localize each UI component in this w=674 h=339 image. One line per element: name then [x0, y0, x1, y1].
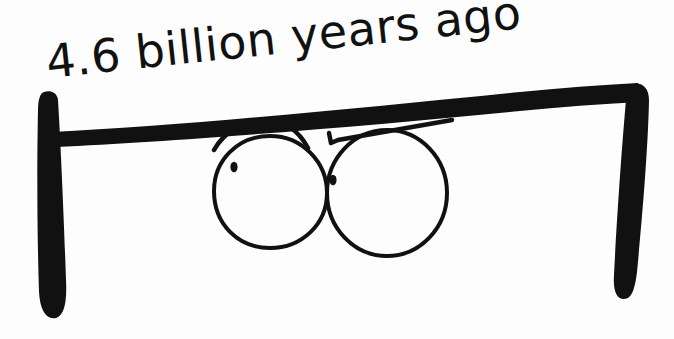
sketch-canvas: 4.6 billion years ago — [0, 0, 674, 339]
left-pupil — [230, 162, 237, 172]
right-pupil — [329, 175, 336, 185]
sketch-svg: 4.6 billion years ago — [0, 0, 674, 339]
